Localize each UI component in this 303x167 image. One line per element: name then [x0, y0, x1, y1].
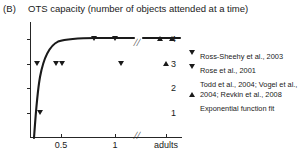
figure-title: OTS capacity (number of objects attended…: [28, 3, 248, 14]
legend-item-ross-sheehy: Ross-Sheehy et al., 2003: [189, 52, 303, 62]
legend-item-label: Rose et al., 2001: [200, 66, 303, 76]
triangle-down-icon: [189, 69, 197, 77]
figure-panel-b: (B) OTS capacity (number of objects atte…: [0, 0, 303, 167]
legend: Ross-Sheehy et al., 2003 Rose et al., 20…: [189, 52, 303, 114]
legend-item-label: Ross-Sheehy et al., 2003: [200, 52, 303, 62]
line-icon: [189, 107, 197, 115]
x-tick-label-0.5: 0.5: [55, 140, 68, 150]
x-tick-label-adults: adults: [154, 140, 178, 150]
legend-item-todd-vogel-revkin: Todd et al., 2004; Vogel et al., 2004; R…: [189, 80, 303, 100]
plot-area: 4 3 2 1 0.5 1 adults // // Age in years: [30, 22, 182, 138]
legend-item-exponential-fit: Exponential function fit: [189, 104, 303, 114]
legend-item-label: Exponential function fit: [200, 104, 303, 114]
panel-label: (B): [3, 3, 16, 14]
legend-item-rose: Rose et al., 2001: [189, 66, 303, 76]
triangle-up-icon: [189, 83, 197, 91]
x-tick-label-1: 1: [112, 140, 117, 150]
triangle-down-icon: [189, 55, 197, 63]
legend-item-label: Todd et al., 2004; Vogel et al., 2004; R…: [200, 80, 303, 100]
